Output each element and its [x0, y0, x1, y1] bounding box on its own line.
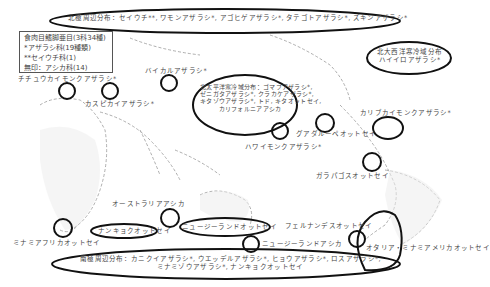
- legend-box: 食肉目鰭脚亜目(3科34種) *アザラシ科(19種類) **セイウチ科(1) 無…: [19, 31, 113, 73]
- caspian-label: カスピカイアザラシ*: [85, 101, 154, 109]
- australian-label: オーストラリアアシカ: [112, 201, 185, 209]
- north-pacific-line: ゼニガタアザラシ*, クラカケアザラシ*,: [200, 90, 300, 97]
- north-atlantic-line: ハイイロアザラシ*: [372, 57, 447, 65]
- north-pacific-line: キタゾウアザラシ*, トド, キタオットセイ,: [200, 97, 300, 104]
- caspian-circle: [102, 83, 118, 99]
- north-atlantic-label: 北大西洋寒冷域分布 ハイイロアザラシ*: [372, 49, 447, 65]
- caribbean-monk-label: カリブカイモンクアザラシ*: [360, 110, 451, 118]
- mediterranean-circle: [59, 83, 75, 99]
- legend-line: *アザラシ科(19種類): [24, 43, 108, 53]
- antarctic-label: 南極周辺分布：カニクイアザラシ*, ウエッデルアザラシ*, ヒョウアザラシ*, …: [80, 256, 380, 272]
- legend-line: **セイウチ科(1): [24, 53, 108, 63]
- guadalupe-label: グアダルーペオットセイ: [296, 131, 376, 139]
- galapagos-circle: [363, 153, 381, 171]
- hawaii-circle: [272, 123, 288, 139]
- hawaiian-monk-label: ハワイモンクアザラシ*: [245, 144, 322, 152]
- nz-sealion-label: ニュージーランドアシカ: [262, 241, 342, 249]
- antarctic-line: ミナミゾウアザラシ*, ナンキョクオットセイ: [80, 264, 380, 272]
- north-pacific-label: 北太平洋寒冷域分布：ゴマフアザラシ*, ゼニガタアザラシ*, クラカケアザラシ*…: [200, 83, 300, 112]
- juan-fernandez-label: フェルナンデスオットセイ: [285, 223, 373, 231]
- south-american-label: オタリア・ミナミアメリカオットセイ: [366, 245, 490, 253]
- baikal-circle: [161, 75, 177, 91]
- nz-fur-label: ニュージーランドオットセイ: [182, 224, 277, 232]
- antarctic-fur-label: ナンキョクオットセイ: [98, 228, 171, 236]
- arctic-label: 北極周辺分布：セイウチ**, ワモンアザラシ*, アゴヒゲアザラシ*, タテゴト…: [68, 15, 408, 23]
- south-african-label: ミナミアフリカオットセイ: [13, 240, 101, 248]
- north-pacific-line: 北太平洋寒冷域分布：ゴマフアザラシ*,: [200, 83, 300, 90]
- australia-circle: [161, 209, 179, 227]
- galapagos-label: ガラパゴスオットセイ: [316, 173, 389, 181]
- baikal-label: バイカルアザラシ*: [145, 68, 207, 76]
- mediterranean-monk-label: チチュウカイモンクアザラシ*: [18, 76, 116, 84]
- legend-title: 食肉目鰭脚亜目(3科34種): [24, 33, 108, 43]
- caribbean-circle: [373, 117, 403, 139]
- north-pacific-line: カリフォルニアアシカ: [200, 105, 300, 112]
- legend-line: 無印：アシカ科(14): [24, 63, 108, 73]
